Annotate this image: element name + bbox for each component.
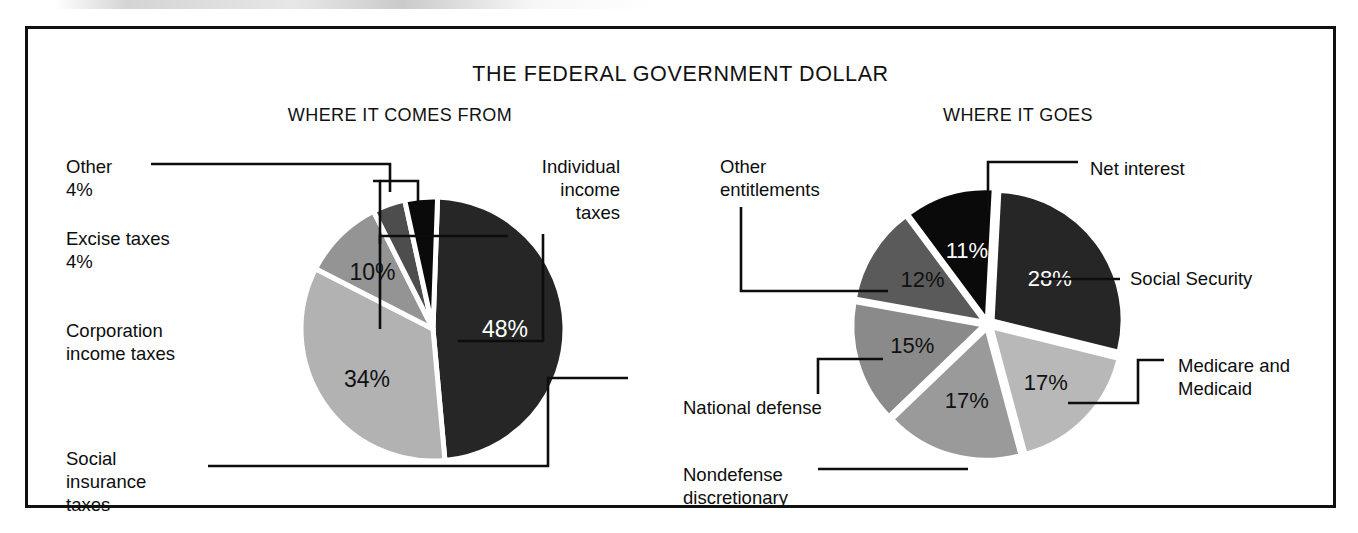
label-excise-taxes: Excise taxes 4% xyxy=(66,227,226,273)
slice-value-label: 12% xyxy=(901,267,945,292)
label-individual-income-taxes: Individual income taxes xyxy=(480,155,620,224)
slice-value-label: 11% xyxy=(946,238,988,263)
panel-subtitle-goes: WHERE IT GOES xyxy=(828,105,1208,126)
slice-value-label: 28% xyxy=(1028,266,1072,291)
panel-subtitle-comes-from: WHERE IT COMES FROM xyxy=(190,105,610,126)
pie-chart-where-it-goes: 28%17%17%15%12%11% xyxy=(838,172,1138,472)
slice-value-label: 34% xyxy=(344,366,390,392)
figure-frame: THE FEDERAL GOVERNMENT DOLLAR WHERE IT C… xyxy=(25,26,1336,508)
label-social-insurance-taxes: Social insurance taxes xyxy=(66,447,236,516)
label-medicare-and-medicaid: Medicare and Medicaid xyxy=(1178,354,1358,400)
label-other-entitlements: Other entitlements xyxy=(720,155,870,201)
slice-value-label: 15% xyxy=(890,333,934,358)
label-nondefense-discretionary: Nondefense discretionary xyxy=(683,463,863,509)
slice-value-label: 10% xyxy=(349,259,395,285)
slice-value-label: 17% xyxy=(1024,370,1068,395)
label-other: Other 4% xyxy=(66,155,186,201)
label-national-defense: National defense xyxy=(683,396,868,419)
label-corporation-income-taxes: Corporation income taxes xyxy=(66,319,256,365)
pie-chart-where-it-comes-from: 48%34%10% xyxy=(283,179,583,479)
label-social-security: Social Security xyxy=(1130,267,1330,290)
slice-value-label: 17% xyxy=(945,388,989,413)
slice-value-label: 48% xyxy=(482,316,528,342)
scan-artifact xyxy=(55,0,655,9)
page-title: THE FEDERAL GOVERNMENT DOLLAR xyxy=(28,62,1333,87)
label-net-interest: Net interest xyxy=(1090,157,1280,180)
figure-page: THE FEDERAL GOVERNMENT DOLLAR WHERE IT C… xyxy=(0,0,1358,533)
